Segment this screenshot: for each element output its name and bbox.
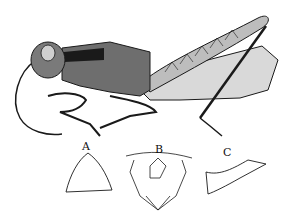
front-leg (48, 93, 100, 136)
detail-c-shape (206, 160, 266, 194)
detail-b-shape (126, 152, 192, 210)
label-b: B (155, 143, 163, 156)
thorax (62, 42, 150, 96)
eye (41, 45, 55, 61)
label-a: A (82, 140, 90, 153)
mid-leg (100, 96, 156, 128)
label-c: C (223, 146, 231, 159)
grasshopper-illustration (0, 0, 288, 222)
hind-tarsus (200, 118, 222, 136)
detail-a-shape (66, 153, 112, 192)
